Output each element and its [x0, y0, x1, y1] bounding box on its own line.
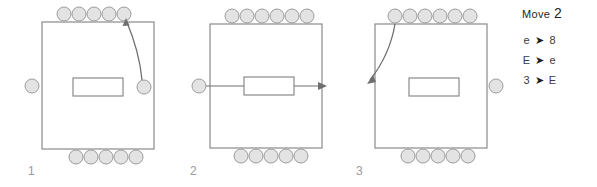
move-legend-title: Move 2 [522, 6, 594, 21]
panel-1-bottom-circles [69, 150, 143, 164]
panel-1-right-circle [137, 80, 151, 94]
arrow-right-icon: ➤ [535, 55, 544, 66]
arrow-right-icon: ➤ [535, 75, 544, 86]
panel-2-left-circle [192, 79, 206, 93]
move-legend: Move 2 e ➤ 8 E ➤ e 3 ➤ E [522, 6, 594, 106]
move-legend-row: E ➤ e [522, 50, 594, 70]
panel-1-label: 1 [28, 164, 35, 178]
move-to-token: e [548, 54, 557, 66]
move-from-token: 3 [522, 74, 531, 86]
move-legend-title-word: Move [522, 8, 550, 20]
diagram-panel-1 [20, 0, 190, 187]
move-legend-title-number: 2 [554, 5, 562, 21]
panel-2-label: 2 [190, 164, 197, 178]
panel-1-top-circles [57, 7, 131, 21]
arrow-right-icon: ➤ [535, 35, 544, 46]
diagram-panel-2 [188, 0, 358, 187]
move-from-token: E [522, 54, 531, 66]
move-legend-row: e ➤ 8 [522, 30, 594, 50]
panel-2-center-rect [244, 77, 294, 95]
move-to-token: E [548, 74, 557, 86]
panel-3-bottom-circles [401, 149, 475, 163]
panel-1-center-rect [73, 78, 123, 96]
panel-2-bottom-circles [234, 149, 308, 163]
panel-3-right-circle [489, 79, 503, 93]
move-legend-row: 3 ➤ E [522, 70, 594, 90]
move-legend-list: e ➤ 8 E ➤ e 3 ➤ E [522, 30, 594, 90]
move-to-token: 8 [548, 34, 557, 46]
panel-3-top-circles [388, 9, 477, 23]
panel-2-top-circles [225, 9, 314, 23]
panel-1-left-circle [25, 79, 39, 93]
panel-3-label: 3 [356, 164, 363, 178]
panel-3-center-rect [409, 78, 459, 96]
diagram-panel-3 [353, 0, 523, 187]
diagram-figure: 1 2 3 Move 2 e ➤ 8 E ➤ e 3 ➤ E [0, 0, 597, 187]
move-from-token: e [522, 34, 531, 46]
